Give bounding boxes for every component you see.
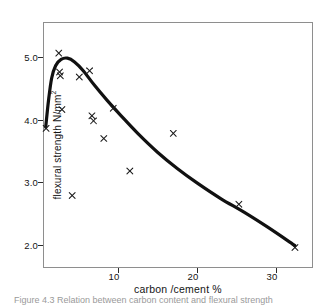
figure-container: flexural strength N/mm2 carbon /cement %…	[0, 0, 336, 306]
y-tick-label: 3.0	[0, 177, 38, 188]
y-tick-label: 4.0	[0, 114, 38, 125]
y-tick-mark	[38, 245, 43, 246]
y-axis-title-exponent: 2	[50, 91, 57, 95]
x-tick-mark	[276, 268, 277, 273]
y-tick-label: 2.0	[0, 240, 38, 251]
x-tick-mark	[197, 268, 198, 273]
x-axis-title: carbon /cement %	[43, 283, 313, 295]
y-axis-title-text: flexural strength N/mm	[52, 94, 63, 199]
y-axis-title: flexural strength N/mm2	[50, 91, 62, 200]
y-tick-mark	[38, 120, 43, 121]
figure-caption: Figure 4.3 Relation between carbon conte…	[14, 295, 332, 306]
y-tick-mark	[38, 57, 43, 58]
plot-frame	[43, 22, 313, 268]
y-tick-mark	[38, 182, 43, 183]
y-tick-label: 5.0	[0, 51, 38, 62]
x-tick-mark	[118, 268, 119, 273]
